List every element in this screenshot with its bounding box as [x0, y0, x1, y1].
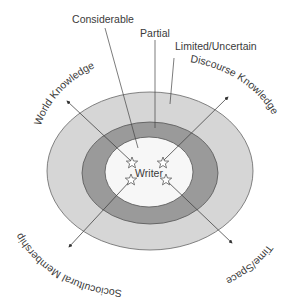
writer-label: Writer — [135, 167, 163, 179]
writer-knowledge-diagram: Writer Considerable Partial Limited/Unce… — [0, 0, 292, 301]
time-space-label: Time/Space — [224, 243, 276, 288]
limited-uncertain-label: Limited/Uncertain — [175, 40, 257, 52]
considerable-label: Considerable — [72, 13, 134, 25]
partial-label: Partial — [140, 27, 170, 39]
